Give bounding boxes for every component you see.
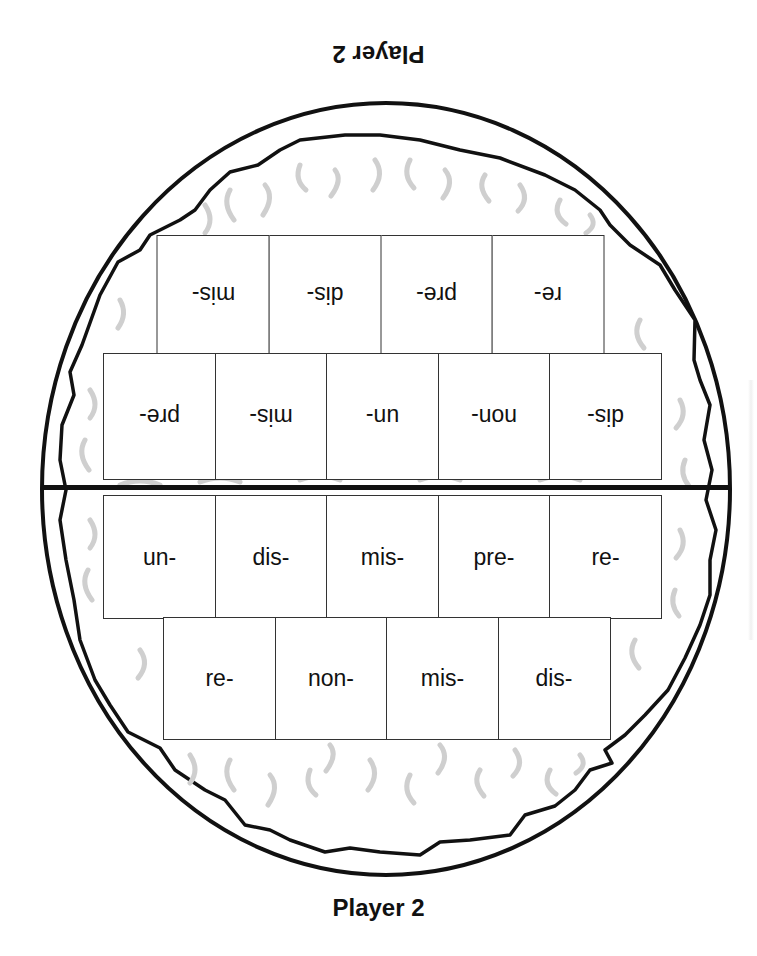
prefix-tile[interactable]: dis- <box>549 353 662 480</box>
prefix-tile[interactable]: mis- <box>386 617 499 740</box>
bottom-row-2: re- non- mis- dis- <box>163 617 611 740</box>
prefix-tile[interactable]: mis- <box>215 353 328 480</box>
prefix-tile[interactable]: dis- <box>215 495 328 619</box>
prefix-tile[interactable]: pre- <box>103 353 216 480</box>
top-row-2: dis- non- un- mis- pre- <box>103 353 662 480</box>
prefix-tile[interactable]: mis- <box>157 235 270 355</box>
prefix-tile[interactable]: non- <box>275 617 388 740</box>
prefix-tile[interactable]: pre- <box>438 495 551 619</box>
prefix-tile[interactable]: re- <box>163 617 276 740</box>
prefix-tile[interactable]: non- <box>438 353 551 480</box>
board-divider <box>42 485 730 490</box>
top-row-1: re- pre- dis- mis- <box>157 235 605 355</box>
prefix-tile[interactable]: mis- <box>326 495 439 619</box>
page-edge-shadow <box>748 380 754 640</box>
bottom-row-1: un- dis- mis- pre- re- <box>103 495 662 619</box>
prefix-tile[interactable]: un- <box>326 353 439 480</box>
prefix-tile[interactable]: pre- <box>380 235 493 355</box>
prefix-tile[interactable]: un- <box>103 495 216 619</box>
prefix-tile[interactable]: re- <box>549 495 662 619</box>
prefix-tile[interactable]: dis- <box>269 235 382 355</box>
prefix-tile[interactable]: re- <box>492 235 605 355</box>
bottom-player-label: Player 2 <box>0 894 757 922</box>
prefix-tile[interactable]: dis- <box>498 617 611 740</box>
